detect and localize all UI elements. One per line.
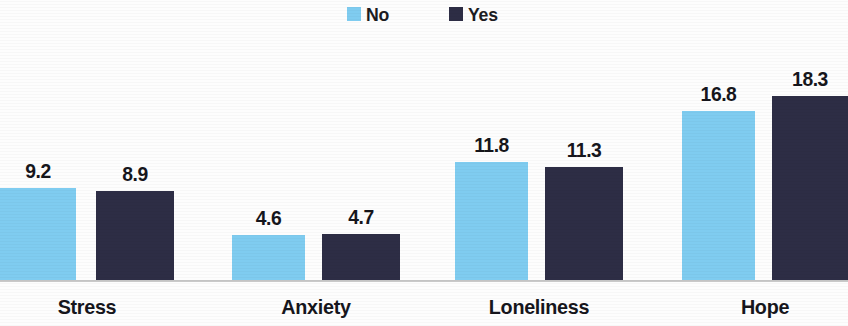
category-label-stress: Stress — [2, 296, 171, 318]
value-label-stress-no: 9.2 — [0, 160, 82, 181]
value-label-loneliness-yes: 11.3 — [539, 139, 629, 160]
bar-stress-no[interactable] — [0, 188, 76, 281]
legend-swatch-yes-icon — [449, 7, 463, 21]
value-label-anxiety-no: 4.6 — [226, 207, 312, 228]
bar-hope-yes[interactable] — [772, 96, 848, 281]
bar-anxiety-no[interactable] — [232, 235, 305, 281]
x-axis-category-labels: StressAnxietyLonelinessHope — [0, 286, 848, 326]
plot-area: 9.28.94.64.711.811.316.818.3 — [0, 28, 848, 281]
legend-label-no: No — [366, 5, 389, 24]
bar-stress-yes[interactable] — [96, 191, 174, 281]
grouped-bar-chart: No Yes 9.28.94.64.711.811.316.818.3 Stre… — [0, 0, 848, 326]
category-label-loneliness: Loneliness — [454, 296, 623, 318]
bar-loneliness-no[interactable] — [455, 162, 528, 281]
x-axis-line — [0, 280, 848, 282]
legend-item-no[interactable]: No — [347, 4, 391, 24]
legend-label-yes: Yes — [468, 5, 498, 24]
category-label-hope: Hope — [680, 296, 848, 318]
legend-swatch-no-icon — [347, 7, 361, 21]
value-label-hope-yes: 18.3 — [766, 68, 848, 89]
bar-hope-no[interactable] — [682, 111, 755, 281]
value-label-stress-yes: 8.9 — [90, 163, 180, 184]
bar-anxiety-yes[interactable] — [322, 234, 400, 281]
legend-item-yes[interactable]: Yes — [449, 4, 500, 24]
value-label-hope-no: 16.8 — [676, 83, 762, 104]
chart-legend: No Yes — [0, 0, 848, 28]
bar-loneliness-yes[interactable] — [545, 167, 623, 281]
value-label-anxiety-yes: 4.7 — [316, 206, 406, 227]
value-label-loneliness-no: 11.8 — [449, 134, 535, 155]
category-label-anxiety: Anxiety — [231, 296, 400, 318]
